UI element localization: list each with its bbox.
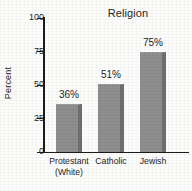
bar (140, 52, 166, 153)
bar-value-label: 75% (128, 37, 178, 48)
chart-title: Religion (93, 7, 163, 19)
bar (98, 84, 124, 152)
y-axis-tick-mark (37, 118, 44, 119)
bar-value-label: 51% (86, 69, 136, 80)
x-axis-category-label: Jewish (123, 156, 183, 167)
x-axis-category-line: Jewish (123, 156, 183, 167)
y-axis-tick-mark (37, 85, 44, 86)
y-axis-tick-mark (37, 152, 44, 153)
y-axis-tick-mark (37, 51, 44, 52)
y-axis-tick-mark (37, 18, 44, 19)
bar (56, 104, 82, 152)
bar-value-label: 36% (44, 89, 94, 100)
x-axis-category-line: (White) (39, 167, 99, 178)
bar-chart-figure: Religion Percent 0255075100 36%Protestan… (0, 0, 192, 191)
